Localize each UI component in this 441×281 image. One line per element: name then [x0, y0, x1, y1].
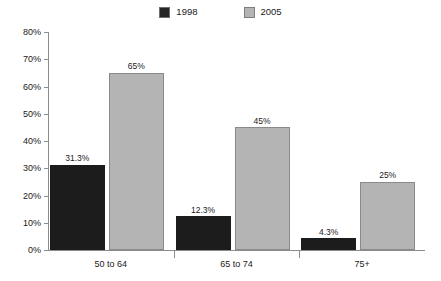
y-axis-tick-label: 0%: [28, 246, 41, 255]
y-axis-tick: [44, 32, 48, 33]
bar-2005-75+: 25%: [360, 182, 415, 250]
y-axis-tick-label: 70%: [23, 55, 41, 64]
legend-item-1998: 1998: [159, 7, 197, 18]
y-axis-tick-label: 60%: [23, 82, 41, 91]
x-axis-category-label: 65 to 74: [220, 260, 253, 269]
bar-value-label: 12.3%: [191, 206, 215, 215]
bar-1998-75+: 4.3%: [301, 238, 356, 250]
legend-label-1998: 1998: [176, 7, 197, 17]
y-axis-tick: [44, 114, 48, 115]
category-separator-tick: [299, 250, 300, 258]
y-axis-tick-label: 20%: [23, 191, 41, 200]
y-axis-tick-label: 40%: [23, 137, 41, 146]
legend-swatch-2005-icon: [244, 7, 255, 18]
x-axis-category-label: 50 to 64: [95, 260, 128, 269]
bar-value-label: 65%: [128, 62, 145, 71]
legend-item-2005: 2005: [244, 7, 282, 18]
y-axis-tick: [44, 141, 48, 142]
y-axis-tick-label: 80%: [23, 28, 41, 37]
bar-value-label: 25%: [379, 171, 396, 180]
x-axis-line: [48, 250, 425, 251]
bar-2005-50-to-64: 65%: [109, 73, 164, 250]
category-separator-tick: [174, 250, 175, 258]
y-axis-tick: [44, 196, 48, 197]
y-axis-tick: [44, 223, 48, 224]
legend-swatch-1998-icon: [159, 7, 170, 18]
legend-label-2005: 2005: [261, 7, 282, 17]
bar-1998-50-to-64: 31.3%: [50, 165, 105, 250]
y-axis-tick-label: 50%: [23, 109, 41, 118]
chart-plot-area: 0%10%20%30%40%50%60%70%80% 31.3%65%12.3%…: [48, 32, 425, 250]
chart-legend: 1998 2005: [0, 0, 441, 24]
bar-value-label: 4.3%: [319, 228, 338, 237]
x-axis-category-label: 75+: [355, 260, 370, 269]
bar-1998-65-to-74: 12.3%: [176, 216, 231, 250]
y-axis-tick-label: 10%: [23, 218, 41, 227]
y-axis-tick: [44, 87, 48, 88]
bar-value-label: 31.3%: [65, 154, 89, 163]
y-axis-tick-label: 30%: [23, 164, 41, 173]
y-axis-tick: [44, 59, 48, 60]
bar-2005-65-to-74: 45%: [235, 127, 290, 250]
y-axis-tick: [44, 250, 48, 251]
y-axis-tick: [44, 168, 48, 169]
bar-value-label: 45%: [253, 117, 270, 126]
